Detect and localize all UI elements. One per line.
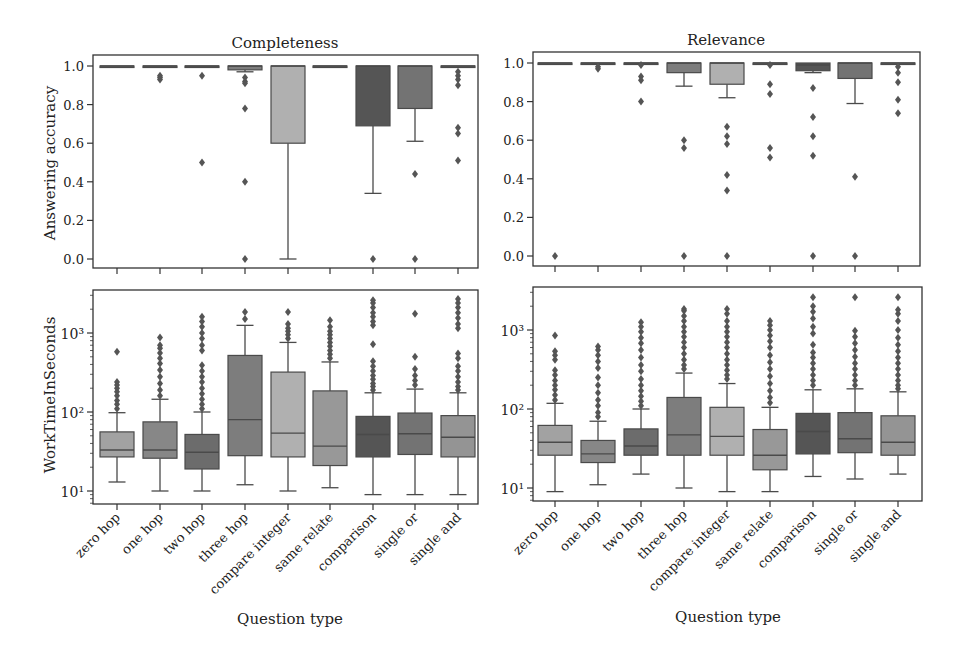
box-zero-hop [100, 66, 134, 68]
panel-completeness-worktime: 10¹10²10³zero hopone hoptwo hopthree hop… [61, 290, 478, 597]
panel-completeness-accuracy: 0.00.20.40.60.81.0 [63, 55, 478, 274]
ytick-label: 0.6 [63, 136, 84, 151]
ytick-label: 0.0 [63, 252, 84, 267]
ytick-label: 1.0 [503, 56, 524, 71]
xtick-label: zero hop [72, 510, 123, 561]
ytick-label: 0.2 [63, 213, 84, 228]
xtick-label: compare integer [645, 506, 733, 594]
ytick-label: 0.4 [503, 172, 524, 187]
title-relevance: Relevance [687, 31, 765, 49]
ytick-label: 10² [501, 402, 524, 418]
ytick-label: 10¹ [501, 481, 524, 497]
ytick-label: 0.2 [503, 210, 524, 225]
box-same-relate [313, 66, 347, 68]
xlabel-left: Question type [237, 610, 343, 628]
xtick-label: one hop [118, 510, 166, 558]
xlabel-right: Question type [675, 608, 781, 626]
xtick-label: one hop [556, 507, 604, 555]
ytick-label: 0.8 [63, 98, 84, 113]
panel-relevance-accuracy: 0.00.20.40.60.81.0 [503, 52, 920, 272]
figure: Completeness Relevance Answering accurac… [0, 0, 958, 656]
ytick-label: 1.0 [63, 59, 84, 74]
ytick-label: 10² [61, 405, 84, 421]
ytick-label: 0.6 [503, 133, 524, 148]
xtick-label: zero hop [510, 507, 561, 558]
ytick-label: 0.0 [503, 249, 524, 264]
ytick-label: 10³ [61, 326, 84, 342]
title-completeness: Completeness [232, 34, 339, 52]
ylabel-worktime: WorkTimeInSeconds [41, 317, 59, 474]
ylabel-accuracy: Answering accuracy [41, 85, 59, 241]
ytick-label: 10³ [501, 323, 524, 339]
ytick-label: 0.4 [63, 175, 84, 190]
ytick-label: 10¹ [61, 484, 84, 500]
panel-relevance-worktime: 10¹10²10³zero hopone hoptwo hopthree hop… [501, 287, 922, 594]
ytick-label: 0.8 [503, 95, 524, 110]
